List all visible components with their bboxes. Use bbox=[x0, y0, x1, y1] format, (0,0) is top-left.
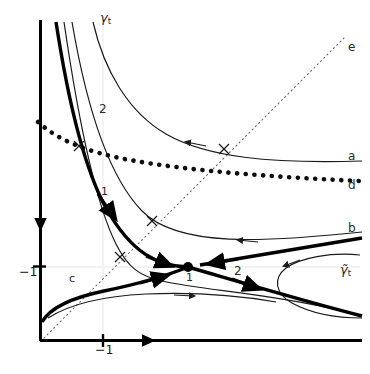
label-curve-e: e bbox=[348, 41, 355, 53]
label-branch-1-center: 1 bbox=[186, 272, 193, 283]
label-curve-d: d bbox=[348, 179, 356, 191]
separatrix-stable-arrow-lower bbox=[146, 256, 166, 264]
crossing-markers bbox=[74, 141, 229, 262]
separatrix-lower-left bbox=[42, 267, 188, 322]
phase-portrait-figure: γt γ̃t a b d e c 1 2 1 2 −1 −1 bbox=[0, 0, 370, 374]
tick-label-y-minus-one: −1 bbox=[19, 266, 37, 279]
curve-a bbox=[93, 22, 362, 162]
curve-d-path bbox=[38, 122, 360, 181]
separatrix-unstable bbox=[188, 267, 362, 316]
label-curve-b: b bbox=[348, 222, 356, 234]
label-gamma-t: γt bbox=[100, 11, 111, 25]
separatrix-unstable-arrow bbox=[232, 279, 254, 287]
curve-b-path bbox=[72, 22, 362, 240]
separatrix-incoming-right-arrow bbox=[214, 259, 238, 263]
curve-b bbox=[72, 22, 362, 242]
label-branch-1-upper: 1 bbox=[101, 186, 108, 197]
label-branch-2-right: 2 bbox=[234, 265, 242, 277]
label-gamma-t-text: γ bbox=[100, 10, 108, 25]
tick-label-x-minus-one: −1 bbox=[95, 344, 113, 357]
curve-c-arrow bbox=[174, 295, 194, 296]
label-branch-2-upper: 2 bbox=[99, 103, 107, 115]
label-gamma-tilde-t-text: γ̃ bbox=[340, 262, 348, 277]
label-gamma-tilde-t-sub: t bbox=[348, 268, 351, 278]
curve-right-loop-arrow bbox=[284, 260, 300, 266]
separatrix-unstable-path bbox=[188, 267, 362, 316]
separatrix-incoming-right bbox=[200, 238, 362, 265]
curve-b-arrow bbox=[238, 240, 258, 242]
phase-portrait-canvas bbox=[0, 0, 370, 374]
crossing-marker-a bbox=[219, 144, 229, 154]
separatrix-lower-left-path bbox=[42, 267, 188, 322]
label-gamma-t-sub: t bbox=[108, 16, 111, 26]
label-curve-a: a bbox=[348, 150, 355, 162]
label-curve-c: c bbox=[69, 273, 75, 284]
label-gamma-tilde-t: γ̃t bbox=[340, 263, 351, 277]
curve-d-isocline bbox=[38, 122, 360, 181]
curve-a-path bbox=[93, 22, 362, 162]
